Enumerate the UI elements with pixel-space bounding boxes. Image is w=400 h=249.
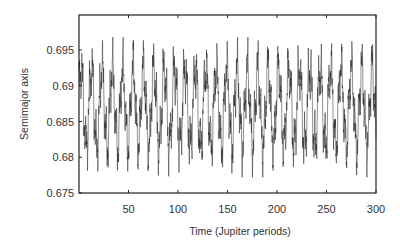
x-tick-label: 100 [169, 203, 187, 215]
y-axis-label: Semimajor axis [18, 68, 30, 140]
x-tick-label: 50 [122, 203, 134, 215]
x-axis-label: Time (Jupiter periods) [189, 225, 291, 237]
y-tick-label: 0.695 [46, 44, 74, 56]
y-axis-label-group: Semimajor axis [18, 68, 30, 140]
x-tick-label: 200 [268, 203, 286, 215]
y-tick-label: 0.68 [53, 151, 74, 163]
y-axis-ticks: 0.6750.680.6850.690.695 [46, 44, 82, 199]
y-tick-label: 0.69 [53, 80, 74, 92]
y-tick-label: 0.675 [46, 187, 74, 199]
y-tick-label: 0.685 [46, 116, 74, 128]
x-tick-label: 300 [367, 203, 385, 215]
series-line [79, 37, 376, 177]
x-tick-label: 150 [218, 203, 236, 215]
x-tick-label: 250 [317, 203, 335, 215]
plot-area [79, 37, 376, 177]
chart: Semimajor axis 0.6750.680.6850.690.695 5… [0, 0, 400, 249]
